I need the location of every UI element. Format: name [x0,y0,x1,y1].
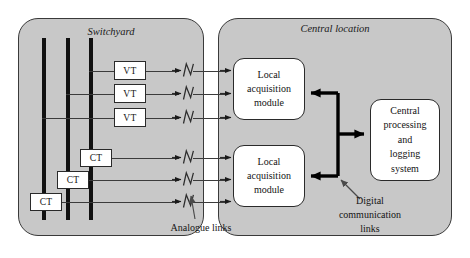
processor-line-4: logging [390,147,421,162]
module-1-line-1: Local [258,68,281,82]
current-transformer-1: CT [80,149,112,167]
analogue-wire-2-tail [193,94,226,95]
analogue-wire-5-tail [193,180,226,181]
current-transformer-1-label: CT [90,153,103,163]
digital-links-callout-line-2: communication [310,208,430,222]
vt-tap-wire-1 [89,71,114,72]
module-2-line-1: Local [258,155,281,169]
busbar-3 [89,38,93,220]
voltage-transformer-1: VT [114,61,146,80]
current-transformer-3: CT [30,193,62,211]
voltage-transformer-3-label: VT [123,113,136,123]
processor-line-5: system [391,162,419,177]
module-1-line-2: acquisition [247,82,291,96]
vt-tap-wire-3 [42,118,114,119]
analogue-wire-6-tail [193,202,226,203]
current-transformer-3-label: CT [40,197,53,207]
digital-links-callout-line-3: links [310,222,430,236]
voltage-transformer-2-label: VT [123,89,136,99]
busbar-2 [66,38,70,220]
voltage-transformer-2: VT [114,84,146,103]
analogue-wire-5 [89,180,179,181]
analogue-wire-4 [112,158,179,159]
module-2-line-2: acquisition [247,169,291,183]
analogue-wire-2 [146,94,179,95]
analogue-wire-6 [62,202,179,203]
current-transformer-2: CT [57,171,89,189]
module-2-line-3: module [254,183,284,197]
current-transformer-2-label: CT [67,175,80,185]
voltage-transformer-3: VT [114,108,146,127]
processor-line-2: processing [384,118,427,133]
digital-links-callout-line-1: Digital [310,194,430,208]
vt-tap-wire-2 [66,94,114,95]
module-1-line-3: module [254,96,284,110]
central-location-title: Central location [218,23,452,34]
local-acquisition-module-1: Local acquisition module [233,58,305,120]
processor-line-1: Central [390,104,419,119]
voltage-transformer-1-label: VT [123,66,136,76]
central-processing-logging-system: Central processing and logging system [370,99,440,181]
digital-links-callout: Digital communication links [310,194,430,236]
analogue-links-callout: Analogue links [155,221,247,235]
analogue-wire-3-tail [193,118,226,119]
analogue-links-callout-line-1: Analogue links [155,221,247,235]
switchyard-title: Switchyard [18,26,204,37]
analogue-wire-3 [146,118,179,119]
figure-canvas: Switchyard Central location VT VT VT CT … [0,0,470,258]
processor-line-3: and [398,133,412,148]
analogue-wire-4-tail [193,158,226,159]
local-acquisition-module-2: Local acquisition module [233,145,305,207]
analogue-wire-1-tail [193,71,226,72]
analogue-wire-1 [146,71,179,72]
